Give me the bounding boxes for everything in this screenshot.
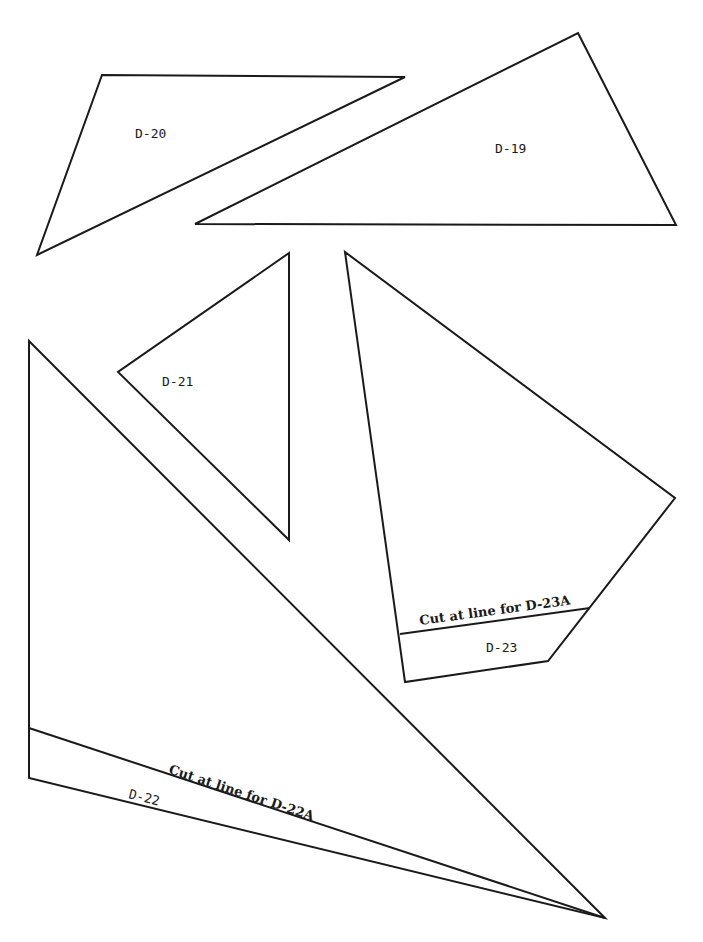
piece-d-19: D-19 [195,33,676,225]
piece-d-21: D-21 [118,253,289,540]
piece-label: D-19 [495,141,526,156]
cut-line [29,728,605,918]
cut-line-label: Cut at line for D-23A [418,592,572,628]
piece-outline [195,33,676,225]
piece-label: D-23 [486,640,517,655]
piece-d-22: Cut at line for D-22A D-22 [29,341,605,918]
pattern-sheet: D-20 D-19 D-21 Cut at line for D-23A D-2… [0,0,703,942]
piece-outline [118,253,289,540]
piece-d-23: Cut at line for D-23A D-23 [345,252,675,682]
cut-line-label: Cut at line for D-22A [167,762,317,824]
piece-label: D-20 [135,126,166,141]
piece-outline [37,75,405,255]
piece-outline [345,252,675,682]
piece-label: D-21 [162,374,193,389]
piece-d-20: D-20 [37,75,405,255]
piece-outline [29,341,605,918]
